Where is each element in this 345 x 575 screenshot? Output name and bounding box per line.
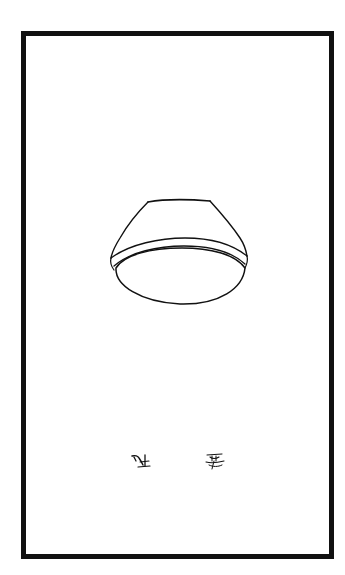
seal-mark-left: [132, 455, 150, 467]
bowl-band-right: [245, 256, 247, 268]
bowl-right-side: [210, 201, 247, 256]
illustration-canvas: [0, 0, 345, 575]
bowl-left-side: [111, 202, 148, 258]
bowl-illustration: [111, 200, 248, 304]
bowl-bottom-ellipse: [116, 248, 245, 304]
bowl-top-edge: [148, 200, 210, 202]
seal-mark-right: [206, 454, 224, 469]
bowl-band-left: [111, 258, 114, 270]
